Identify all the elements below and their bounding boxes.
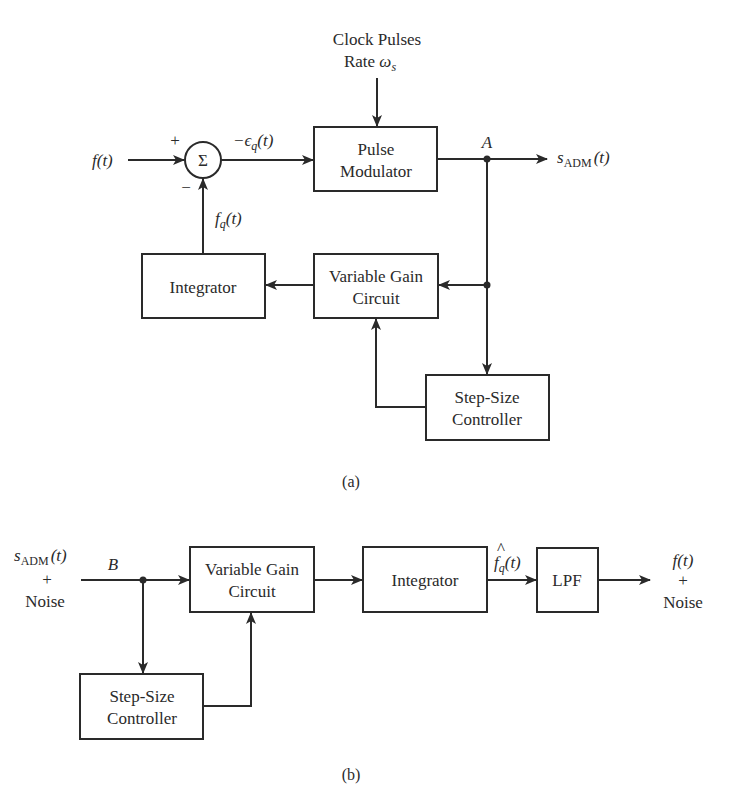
step-size-controller-block-b (80, 674, 203, 739)
step-size-to-vgc-arrow (376, 319, 426, 407)
pulse-modulator-line1: Pulse (358, 140, 395, 159)
output-f-t: f(t) (673, 551, 694, 570)
adm-block-diagram: Clock Pulses Rate ωs f(t) Σ + − −ϵq(t) P… (0, 0, 739, 808)
input-label-s-adm: sADM(t) (14, 546, 67, 568)
error-label: −ϵq(t) (233, 131, 274, 153)
input-label-f-t: f(t) (92, 151, 113, 170)
pulse-modulator-line2: Modulator (340, 162, 412, 181)
diagram-b: sADM(t) + Noise B Variable Gain Circuit … (14, 539, 703, 784)
vgc-line1: Variable Gain (329, 267, 423, 286)
clock-pulses-label: Clock Pulses (333, 30, 421, 49)
input-noise: Noise (25, 592, 65, 611)
step-size-line1: Step-Size (454, 388, 519, 407)
node-a-label: A (481, 133, 493, 152)
variable-gain-circuit-block-b (190, 547, 314, 612)
vgc-b-line2: Circuit (228, 582, 275, 601)
step-size-b-line2: Controller (107, 709, 177, 728)
step-size-line2: Controller (452, 410, 522, 429)
integrator-b-label: Integrator (391, 571, 458, 590)
diagram-a: Clock Pulses Rate ωs f(t) Σ + − −ϵq(t) P… (92, 30, 610, 491)
step-size-b-line1: Step-Size (109, 687, 174, 706)
caption-a: (a) (342, 473, 360, 491)
step-size-to-vgc-arrow-b (203, 613, 251, 706)
variable-gain-circuit-block (314, 254, 438, 318)
output-plus: + (678, 571, 688, 590)
lpf-label: LPF (552, 571, 581, 590)
step-size-controller-block (426, 375, 549, 440)
vgc-b-line1: Variable Gain (205, 560, 299, 579)
output-noise: Noise (663, 593, 703, 612)
input-plus: + (42, 570, 52, 589)
output-label-s-adm: sADM(t) (557, 148, 610, 170)
node-b-label: B (108, 555, 119, 574)
clock-rate-label: Rate ωs (344, 52, 396, 74)
feedback-label: fq(t) (215, 209, 242, 231)
sigma-symbol: Σ (198, 151, 208, 170)
pulse-modulator-block (314, 127, 437, 191)
plus-sign: + (170, 131, 180, 150)
integrator-label: Integrator (169, 278, 236, 297)
minus-sign: − (181, 178, 191, 197)
vgc-line2: Circuit (352, 289, 399, 308)
caption-b: (b) (342, 766, 361, 784)
hat-accent: ^ (497, 539, 505, 558)
